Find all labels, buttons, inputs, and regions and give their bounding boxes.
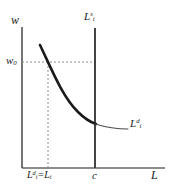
- equilibrium-right-subscript: i: [50, 173, 52, 180]
- demand-curve-thin-tail: [95, 124, 128, 129]
- diagram-canvas: [0, 0, 173, 192]
- y-axis-label: w: [11, 14, 19, 26]
- wage-level-subscript: 0: [13, 59, 16, 66]
- supply-curve-subscript: i: [93, 15, 95, 22]
- demand-curve-label: Ldi: [130, 118, 141, 129]
- demand-curve-thick-segment: [40, 45, 96, 124]
- x-axis-label: L: [151, 169, 158, 181]
- equilibrium-employment-label: Ldi=Li: [27, 170, 51, 180]
- labor-supply-demand-diagram: w w0 Lsi Ldi Ldi=Li c L: [0, 0, 173, 192]
- supply-curve-label: Lsi: [84, 11, 95, 22]
- demand-curve-subscript: i: [140, 122, 142, 129]
- constraint-label: c: [92, 170, 97, 181]
- wage-level-label: w0: [6, 55, 17, 66]
